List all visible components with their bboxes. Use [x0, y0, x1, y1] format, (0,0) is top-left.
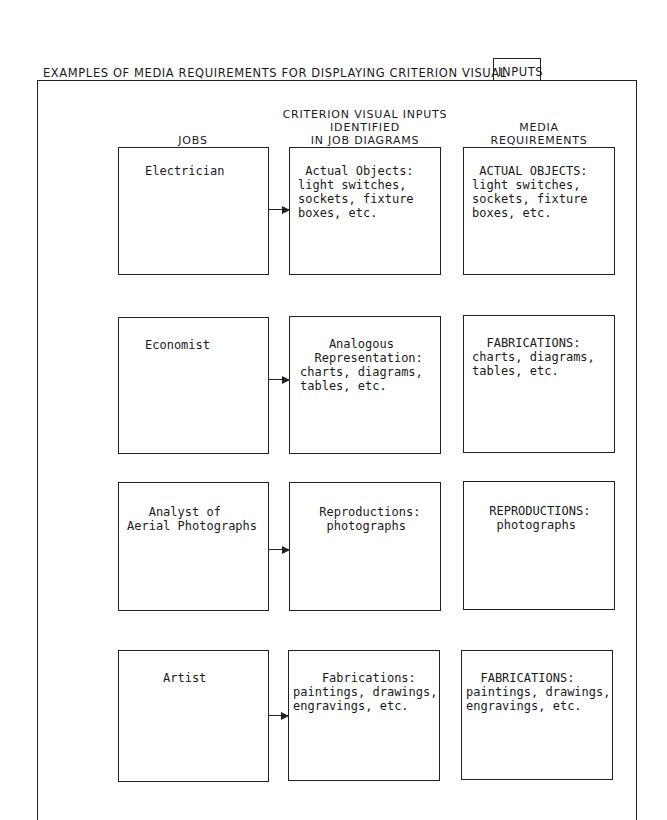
- header-jobs: JOBS: [143, 134, 243, 147]
- arrow-icon: [269, 379, 289, 380]
- title-boxed-word: INPUTS: [493, 58, 541, 80]
- title-text: EXAMPLES OF MEDIA REQUIREMENTS FOR DISPL…: [43, 66, 507, 80]
- job-box-electrician: Electrician: [118, 147, 269, 275]
- criterion-text: Fabrications: paintings, drawings, engra…: [293, 671, 438, 713]
- media-text: ACTUAL OBJECTS: light switches, sockets,…: [472, 164, 588, 220]
- job-box-artist: Artist: [118, 650, 269, 782]
- criterion-box: Actual Objects: light switches, sockets,…: [289, 147, 441, 275]
- job-label: Artist: [163, 671, 206, 685]
- criterion-box: Analogous Representation: charts, diagra…: [289, 316, 441, 454]
- media-box: FABRICATIONS: paintings, drawings, engra…: [461, 650, 613, 780]
- criterion-text: Analogous Representation: charts, diagra…: [300, 337, 423, 393]
- media-box: REPRODUCTIONS: photographs: [463, 481, 615, 610]
- title-boxed-text: INPUTS: [498, 65, 543, 79]
- job-label: Economist: [145, 338, 210, 352]
- header-criterion-line3: IN JOB DIAGRAMS: [240, 134, 490, 147]
- arrow-icon: [269, 549, 289, 550]
- header-media-line2: REQUIREMENTS: [463, 134, 615, 147]
- criterion-box: Fabrications: paintings, drawings, engra…: [288, 650, 440, 781]
- arrow-icon: [269, 715, 288, 716]
- arrow-icon: [269, 209, 289, 210]
- header-criterion-line2: IDENTIFIED: [240, 121, 490, 134]
- media-box: ACTUAL OBJECTS: light switches, sockets,…: [463, 147, 615, 275]
- media-text: FABRICATIONS: charts, diagrams, tables, …: [472, 336, 595, 378]
- media-text: FABRICATIONS: paintings, drawings, engra…: [466, 671, 611, 713]
- job-label: Analyst of Aerial Photographs: [127, 505, 257, 533]
- media-box: FABRICATIONS: charts, diagrams, tables, …: [463, 315, 615, 453]
- job-box-economist: Economist: [118, 317, 269, 454]
- header-media-line1: MEDIA: [463, 121, 615, 134]
- job-label: Electrician: [145, 164, 224, 178]
- criterion-box: Reproductions: photographs: [289, 482, 441, 611]
- criterion-text: Actual Objects: light switches, sockets,…: [298, 164, 414, 220]
- job-box-aerial-analyst: Analyst of Aerial Photographs: [118, 482, 269, 611]
- criterion-text: Reproductions: photographs: [312, 505, 420, 533]
- diagram-title: EXAMPLES OF MEDIA REQUIREMENTS FOR DISPL…: [43, 66, 507, 80]
- header-criterion-line1: CRITERION VISUAL INPUTS: [240, 108, 490, 121]
- media-text: REPRODUCTIONS: photographs: [482, 504, 590, 532]
